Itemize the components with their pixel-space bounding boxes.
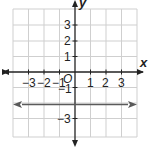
y-tick-label: −3 [57,112,71,126]
y-axis-up-arrow-icon [72,0,78,7]
y-axis-down-arrow-icon [72,140,78,147]
line-left-arrow-icon [13,101,22,108]
line-right-arrow-icon [128,101,137,108]
y-tick-label: 1 [64,50,71,64]
coordinate-plane: x y O −3 −2 −1 1 2 3 3 2 1 −1 −3 [0,0,150,148]
x-tick-label: 3 [118,76,125,90]
y-axis-label: y [78,0,87,10]
y-tick-label: 3 [64,18,71,32]
x-tick-label: 1 [87,76,94,90]
y-tick-label: −1 [58,82,72,96]
x-axis-label: x [139,55,148,70]
y-tick-label: 2 [64,34,71,48]
x-axis-left-arrow-icon [2,69,9,75]
x-tick-label: −3 [22,76,36,90]
x-tick-label: −2 [37,76,51,90]
x-tick-label: 2 [102,76,109,90]
